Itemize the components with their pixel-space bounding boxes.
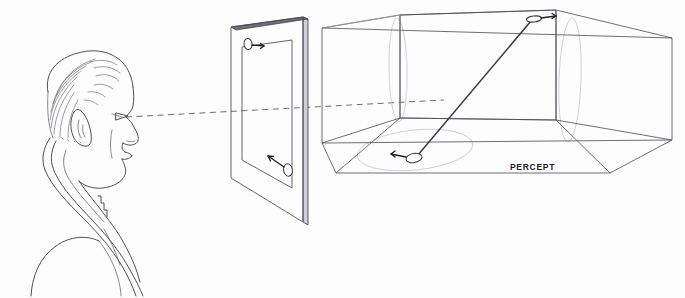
ear-inner: [78, 120, 81, 138]
nose-outline: [123, 117, 138, 145]
percept-wireframe-box: [322, 10, 672, 176]
lower-lip: [122, 156, 132, 159]
collar-inner-line: [51, 141, 143, 296]
hair-strand-7: [60, 93, 74, 137]
cheek-line: [111, 130, 113, 158]
figure-root: PERCEPT: [0, 0, 685, 298]
hair-strand-1: [56, 59, 95, 96]
hair-strand-11: [96, 75, 119, 81]
box-back-wall: [400, 10, 556, 120]
panel-slab-thickness: [303, 17, 308, 225]
box-top-face: [322, 10, 672, 38]
percept-diagonal-ray: [418, 21, 531, 155]
box-left-wall-bottom: [322, 118, 400, 143]
man-profile-head: [31, 51, 143, 296]
ear-inner-2: [83, 125, 85, 137]
box-floor-left-diagonal: [336, 118, 400, 173]
scene-illustration: [0, 0, 685, 298]
mouth-line: [125, 152, 132, 156]
hair-strand-9: [90, 60, 117, 65]
shoulder-outline: [31, 237, 99, 296]
percept-marker-bottom: [391, 151, 423, 164]
sideburn-stipple: [62, 138, 81, 143]
percept-label: PERCEPT: [510, 162, 555, 172]
box-floor-far-edge: [400, 118, 556, 120]
neck-front: [79, 181, 140, 282]
floor-ghost-ellipse: [355, 124, 475, 176]
ear-outline: [71, 109, 91, 146]
box-partition-left-top: [322, 15, 400, 28]
hair-strand-2: [53, 62, 91, 104]
hair-strand-13: [88, 92, 105, 97]
nostril: [127, 141, 135, 142]
left-partition-ghost-ellipse: [388, 18, 408, 122]
hair-strand-12: [94, 84, 113, 89]
hair-strand-3: [51, 66, 86, 112]
torso-seam: [99, 241, 121, 296]
percept-marker-bottom-ellipse: [405, 152, 422, 164]
forehead-line: [126, 87, 134, 117]
collar-notch: [98, 196, 107, 217]
hair-strand-8: [68, 100, 78, 138]
percept-marker-top-ellipse: [526, 15, 542, 23]
percept-marker-top: [526, 14, 556, 23]
hair-strand-10: [94, 67, 120, 73]
hairline-back: [48, 92, 53, 138]
chin-jaw-line: [79, 159, 126, 188]
hair-strand-14: [84, 100, 98, 105]
transparent-picture-plane: [231, 17, 308, 225]
